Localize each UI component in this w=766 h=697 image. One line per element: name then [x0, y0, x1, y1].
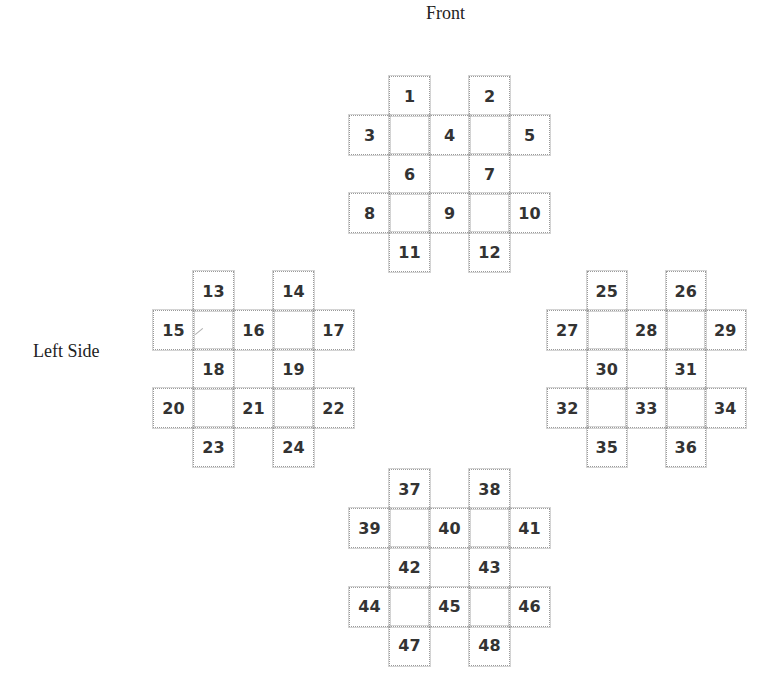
grid-cell: 14	[273, 271, 314, 311]
grid-cell: 15	[153, 310, 194, 350]
grid-cell: 3	[349, 115, 390, 155]
grid-cell-blank	[666, 388, 707, 428]
grid-cell: 22	[313, 388, 354, 428]
grid-cell: 9	[429, 193, 470, 233]
grid-cell-blank	[389, 587, 430, 627]
grid-cell: 27	[547, 310, 588, 350]
grid-cell: 43	[469, 547, 510, 587]
grid-cell: 26	[666, 271, 707, 311]
grid-cell: 13	[193, 271, 234, 311]
grid-cell: 19	[273, 349, 314, 389]
grid-cell-blank	[587, 388, 628, 428]
grid-cell-blank	[389, 508, 430, 548]
grid-cell-blank	[469, 115, 510, 155]
grid-cell: 4	[429, 115, 470, 155]
grid-cell-blank	[193, 388, 234, 428]
front-label: Front	[426, 3, 465, 24]
grid-cell-blank	[389, 193, 430, 233]
grid-cell: 23	[193, 427, 234, 467]
grid-cell: 39	[349, 508, 390, 548]
grid-cell: 20	[153, 388, 194, 428]
grid-cell: 25	[587, 271, 628, 311]
grid-cell: 38	[469, 469, 510, 509]
grid-cell: 16	[233, 310, 274, 350]
grid-cell: 35	[587, 427, 628, 467]
grid-cell: 17	[313, 310, 354, 350]
grid-cell: 33	[626, 388, 667, 428]
grid-cell: 5	[509, 115, 550, 155]
grid-cell: 34	[705, 388, 746, 428]
grid-cell: 47	[389, 626, 430, 666]
grid-cell-blank	[469, 587, 510, 627]
grid-cell: 41	[509, 508, 550, 548]
grid-cell: 6	[389, 154, 430, 194]
grid-cell: 24	[273, 427, 314, 467]
grid-cell: 48	[469, 626, 510, 666]
grid-cell-blank	[469, 193, 510, 233]
grid-cell: 45	[429, 587, 470, 627]
grid-cell: 2	[469, 76, 510, 116]
grid-cell: 31	[666, 349, 707, 389]
grid-cell: 7	[469, 154, 510, 194]
grid-cell: 30	[587, 349, 628, 389]
grid-cell: 18	[193, 349, 234, 389]
grid-cell: 36	[666, 427, 707, 467]
grid-cell: 42	[389, 547, 430, 587]
left-side-label: Left Side	[33, 341, 99, 362]
grid-cell: 32	[547, 388, 588, 428]
grid-cell: 12	[469, 232, 510, 272]
grid-cell: 1	[389, 76, 430, 116]
grid-cell: 46	[509, 587, 550, 627]
grid-cell-blank	[469, 508, 510, 548]
grid-cell: 28	[626, 310, 667, 350]
grid-cell: 29	[705, 310, 746, 350]
grid-cell: 21	[233, 388, 274, 428]
grid-cell: 37	[389, 469, 430, 509]
grid-cell-blank	[587, 310, 628, 350]
grid-cell: 44	[349, 587, 390, 627]
grid-cell-blank	[389, 115, 430, 155]
grid-cell-blank	[273, 388, 314, 428]
grid-cell: 8	[349, 193, 390, 233]
grid-cell: 10	[509, 193, 550, 233]
grid-cell: 40	[429, 508, 470, 548]
grid-cell: 11	[389, 232, 430, 272]
grid-cell-blank	[666, 310, 707, 350]
grid-cell-blank	[273, 310, 314, 350]
